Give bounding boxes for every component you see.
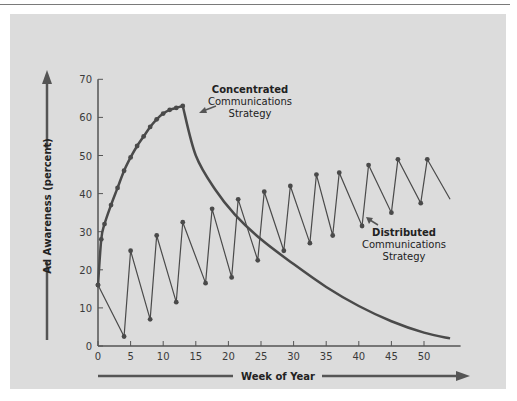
y-axis-title: Ad Awareness (percent) — [42, 138, 53, 274]
y-tick-label: 30 — [79, 227, 92, 238]
y-tick-label: 70 — [79, 74, 92, 85]
distributed-marker — [396, 157, 401, 162]
x-tick-label: 45 — [385, 351, 398, 362]
distributed-marker — [288, 184, 293, 189]
y-tick-label: 10 — [79, 303, 92, 314]
concentrated-marker — [180, 104, 185, 109]
x-tick-label: 25 — [255, 351, 268, 362]
distributed-label-line2: Strategy — [383, 251, 426, 262]
concentrated-label-line2: Strategy — [229, 108, 272, 119]
concentrated-marker — [141, 134, 146, 139]
concentrated-marker — [99, 237, 104, 242]
x-tick-label: 5 — [127, 351, 133, 362]
y-tick-label: 60 — [79, 112, 92, 123]
x-tick-label: 10 — [157, 351, 170, 362]
distributed-marker — [96, 283, 101, 288]
distributed-marker — [337, 170, 342, 175]
y-tick-label: 50 — [79, 151, 92, 162]
concentrated-marker — [174, 105, 179, 110]
y-tick-label: 20 — [79, 265, 92, 276]
x-axis-title-group: Week of Year — [98, 371, 470, 382]
concentrated-pointer-arrow-icon — [199, 107, 207, 113]
distributed-marker — [366, 163, 371, 168]
distributed-marker — [122, 334, 127, 339]
distributed-marker — [236, 197, 241, 202]
concentrated-marker — [102, 222, 107, 227]
concentrated-marker — [122, 168, 127, 173]
distributed-marker — [148, 317, 153, 322]
concentrated-marker — [167, 107, 172, 112]
concentrated-marker — [135, 144, 140, 149]
distributed-marker — [154, 233, 159, 238]
x-tick-label: 20 — [222, 351, 235, 362]
concentrated-marker — [148, 125, 153, 130]
distributed-marker — [281, 248, 286, 253]
distributed-marker — [425, 157, 430, 162]
distributed-marker — [255, 258, 260, 263]
distributed-annotation: Distributed Communications Strategy — [362, 217, 446, 262]
distributed-marker — [128, 248, 133, 253]
distributed-marker — [418, 201, 423, 206]
distributed-marker — [180, 220, 185, 225]
x-arrow-head-icon — [456, 371, 470, 381]
concentrated-marker — [115, 185, 120, 190]
line-chart: 010203040506070 05101520253035404550 Ad … — [0, 0, 517, 401]
distributed-marker — [330, 233, 335, 238]
concentrated-decay-curve — [183, 106, 450, 338]
concentrated-label-line1: Communications — [208, 96, 292, 107]
distributed-marker — [262, 189, 267, 194]
x-tick-label: 15 — [189, 351, 202, 362]
x-axis: 05101520253035404550 — [95, 341, 461, 362]
concentrated-label-bold: Concentrated — [212, 84, 288, 95]
x-axis-title: Week of Year — [241, 371, 315, 382]
distributed-marker — [203, 281, 208, 286]
concentrated-marker — [109, 203, 114, 208]
x-tick-label: 50 — [418, 351, 431, 362]
y-axis: 010203040506070 — [79, 74, 103, 352]
distributed-marker — [229, 275, 234, 280]
y-axis-title-group: Ad Awareness (percent) — [42, 70, 53, 340]
concentrated-series — [96, 104, 450, 339]
concentrated-marker — [128, 155, 133, 160]
distributed-pointer-line — [370, 220, 378, 225]
distributed-marker — [308, 241, 313, 246]
x-tick-label: 0 — [95, 351, 101, 362]
distributed-label-line1: Communications — [362, 239, 446, 250]
concentrated-annotation: Concentrated Communications Strategy — [199, 84, 292, 119]
x-tick-label: 40 — [352, 351, 365, 362]
y-tick-label: 0 — [86, 341, 92, 352]
concentrated-marker — [161, 111, 166, 116]
distributed-label-bold: Distributed — [372, 227, 436, 238]
y-tick-label: 40 — [79, 189, 92, 200]
concentrated-rise-curve — [98, 106, 183, 285]
distributed-marker — [389, 210, 394, 215]
distributed-marker — [210, 206, 215, 211]
x-tick-label: 35 — [320, 351, 333, 362]
concentrated-marker — [154, 117, 159, 122]
distributed-marker — [174, 300, 179, 305]
y-arrow-head-icon — [42, 70, 52, 84]
x-tick-label: 30 — [287, 351, 300, 362]
distributed-marker — [360, 224, 365, 229]
distributed-marker — [314, 172, 319, 177]
